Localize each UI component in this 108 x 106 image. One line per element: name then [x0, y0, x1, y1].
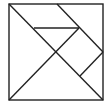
tangram-diagram [0, 0, 108, 106]
right-small-segment-line [80, 52, 103, 76]
tangram-lines [9, 4, 103, 100]
